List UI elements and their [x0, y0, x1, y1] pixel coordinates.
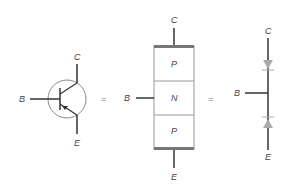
symbol-emitter-label: E — [74, 138, 81, 148]
diode-collector-label: C — [265, 26, 272, 36]
layer-emitter-label: E — [171, 172, 178, 182]
symbol-base-label: B — [19, 94, 25, 104]
equals-sign: = — [101, 94, 106, 104]
equals-sign-2: = — [208, 94, 213, 104]
diode-emitter-label: E — [265, 152, 272, 162]
region-p-top: P — [171, 59, 177, 69]
pnp-layer-model: P N P C B E — [124, 15, 194, 182]
pnp-transistor-equivalence-diagram: C B E = P N P C B E = C B E — [0, 0, 288, 191]
collector-contact — [154, 45, 194, 48]
symbol-collector-label: C — [74, 52, 81, 62]
diode-top-icon — [263, 60, 273, 69]
region-p-bottom: P — [171, 126, 177, 136]
layer-collector-label: C — [171, 15, 178, 25]
region-n: N — [171, 93, 178, 103]
diode-model: C B E — [234, 26, 274, 162]
emitter-arm — [60, 104, 77, 115]
diode-base-label: B — [234, 88, 240, 98]
transistor-symbol: C B E — [19, 52, 86, 148]
layer-base-label: B — [124, 93, 130, 103]
collector-arm — [60, 83, 77, 94]
emitter-contact — [154, 147, 194, 150]
diode-bottom-icon — [263, 119, 273, 128]
